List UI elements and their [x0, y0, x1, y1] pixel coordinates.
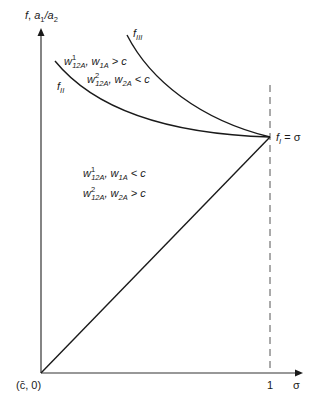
y-axis-label: f, a1/a2 [25, 9, 58, 24]
upper-region-condition-1: w112A, w1A > c [64, 53, 127, 70]
lower-region-condition-1: w112A, w1A < c [83, 165, 146, 182]
f-i-line [41, 137, 270, 373]
x-tick-1: 1 [267, 379, 273, 391]
diagram: f, a1/a2 fIII fII fI = σ w112A, w1A > c … [0, 0, 318, 407]
f-i-label: fI = σ [276, 131, 301, 146]
lower-region-condition-2: w212A, w2A > c [83, 185, 146, 202]
upper-region-condition-2: w212A, w2A < c [87, 71, 150, 88]
origin-label: (c̄, 0) [16, 379, 41, 391]
f-iii-label: fIII [133, 27, 142, 42]
f-iii-curve [127, 35, 270, 137]
x-axis-label: σ [293, 379, 300, 391]
f-ii-label: fII [57, 80, 64, 95]
